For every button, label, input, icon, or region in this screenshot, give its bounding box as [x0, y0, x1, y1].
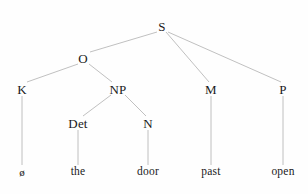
tree-edge-o-to-np: [89, 64, 112, 82]
tree-node-o: O: [78, 52, 88, 65]
tree-leaf-past: past: [201, 166, 220, 178]
tree-edge-s-to-p: [168, 32, 281, 82]
tree-edge-s-to-o: [90, 32, 157, 52]
syntax-tree-diagram: SOKNPMPDetNøthedoorpastopen: [0, 0, 308, 194]
tree-leaf-null: ø: [19, 167, 25, 178]
tree-leaf-door: door: [137, 166, 159, 178]
tree-edge-np-to-n: [125, 95, 146, 116]
tree-leaf-the: the: [71, 166, 86, 178]
tree-edge-o-to-k: [27, 64, 78, 82]
tree-node-n: N: [143, 117, 153, 130]
tree-node-det: Det: [68, 117, 87, 130]
tree-node-s: S: [158, 20, 165, 33]
tree-edge-s-to-m: [166, 32, 209, 82]
tree-edge-np-to-det: [83, 95, 111, 116]
tree-node-np: NP: [109, 83, 126, 96]
tree-node-m: M: [205, 83, 217, 96]
tree-node-p: P: [279, 83, 286, 96]
tree-leaf-open: open: [271, 166, 294, 178]
tree-node-k: K: [17, 83, 27, 96]
